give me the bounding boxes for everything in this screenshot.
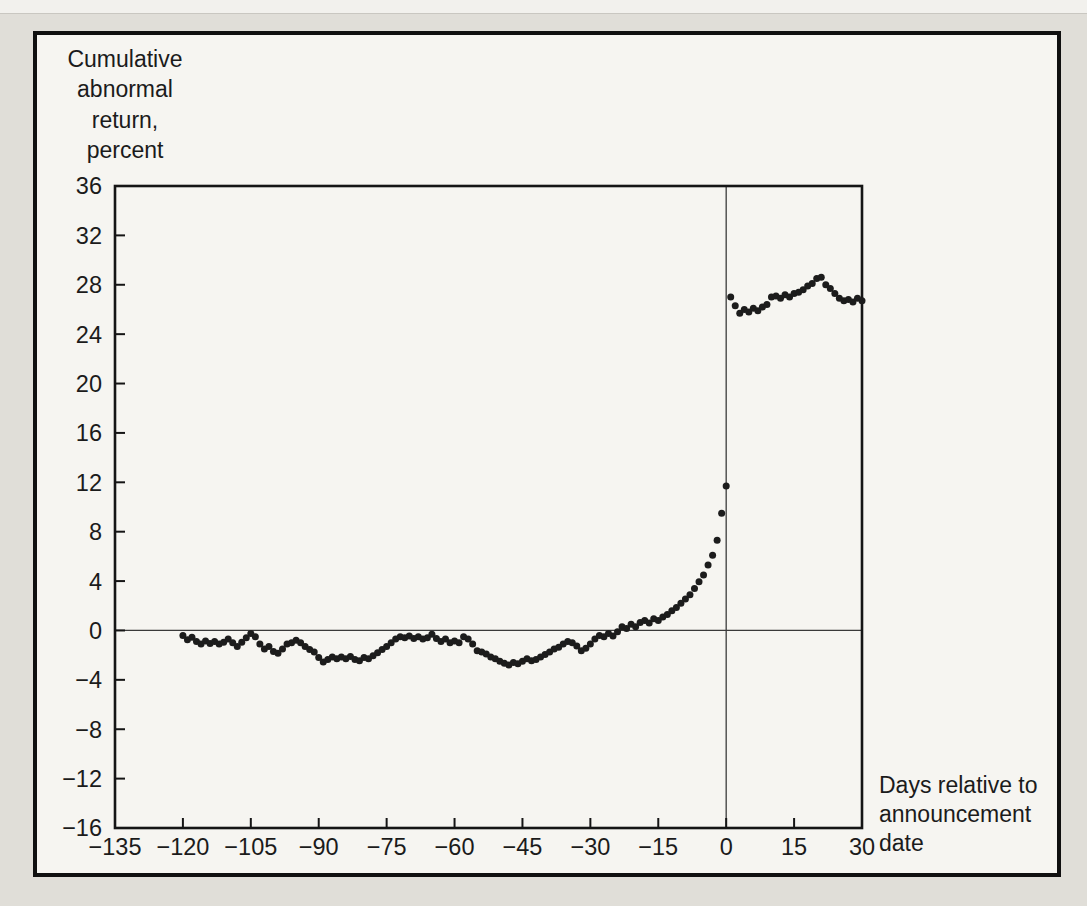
x-tick-label: −120 xyxy=(156,834,209,860)
y-tick-label: 36 xyxy=(76,173,102,199)
x-tick-label: 15 xyxy=(781,834,807,860)
y-tick-label: 20 xyxy=(76,371,102,397)
y-tick-label: 0 xyxy=(89,618,102,644)
data-point xyxy=(718,510,725,517)
x-tick-label: 0 xyxy=(720,834,733,860)
data-point xyxy=(732,302,739,309)
x-axis-title: Days relative to announcement date xyxy=(879,771,1079,859)
y-tick-label: 16 xyxy=(76,420,102,446)
data-point xyxy=(456,639,463,646)
y-tick-label: 12 xyxy=(76,470,102,496)
data-point xyxy=(727,294,734,301)
data-point xyxy=(705,562,712,569)
data-point xyxy=(763,301,770,308)
x-tick-label: 30 xyxy=(849,834,875,860)
y-tick-label: −4 xyxy=(75,667,102,693)
x-tick-label: −15 xyxy=(638,834,678,860)
data-point xyxy=(686,591,693,598)
y-tick-label: 8 xyxy=(89,519,102,545)
data-point xyxy=(818,274,825,281)
y-tick-label: 28 xyxy=(76,272,102,298)
data-point xyxy=(859,297,866,304)
x-tick-label: −75 xyxy=(367,834,407,860)
data-point xyxy=(696,578,703,585)
x-tick-label: −60 xyxy=(435,834,475,860)
y-tick-label: 4 xyxy=(89,569,102,595)
y-tick-label: 32 xyxy=(76,223,102,249)
plot-frame xyxy=(115,186,862,828)
data-point xyxy=(723,483,730,490)
x-tick-label: −90 xyxy=(299,834,339,860)
data-point xyxy=(691,585,698,592)
y-tick-label: −12 xyxy=(62,766,102,792)
data-point xyxy=(311,649,318,656)
x-tick-label: −105 xyxy=(224,834,277,860)
x-tick-label: −135 xyxy=(89,834,142,860)
x-tick-label: −30 xyxy=(570,834,610,860)
data-point xyxy=(714,537,721,544)
data-point xyxy=(469,641,476,648)
data-point xyxy=(252,633,259,640)
data-point xyxy=(700,571,707,578)
y-tick-label: 24 xyxy=(76,322,102,348)
data-point xyxy=(709,552,716,559)
x-tick-label: −45 xyxy=(503,834,543,860)
y-tick-label: −8 xyxy=(75,717,102,743)
